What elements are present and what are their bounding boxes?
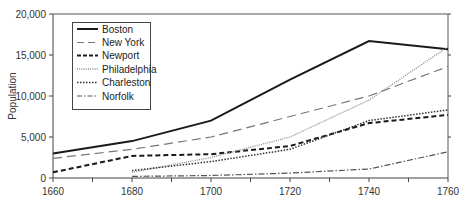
legend-label: Philadelphia [102, 64, 157, 75]
legend-label: Newport [102, 50, 139, 61]
x-tick-label: 1660 [42, 186, 65, 197]
y-tick-label: 0 [40, 173, 46, 184]
legend: Boston New York Newport Philadelphia Cha… [73, 23, 157, 110]
x-ticks: 1660 1680 1700 1720 1740 1760 [42, 178, 460, 197]
y-axis-title: Population [7, 72, 18, 119]
x-tick-label: 1700 [200, 186, 223, 197]
legend-label: Norfolk [102, 91, 135, 102]
legend-label: Boston [102, 24, 133, 35]
x-tick-label: 1740 [358, 186, 381, 197]
x-tick-label: 1680 [121, 186, 144, 197]
legend-label: Charleston [102, 77, 150, 88]
y-tick-label: 20,000 [15, 9, 46, 20]
y-tick-label: 5,000 [21, 132, 46, 143]
x-tick-label: 1760 [437, 186, 460, 197]
legend-label: New York [102, 37, 145, 48]
population-line-chart: 0 5,000 10,000 15,000 20,000 1660 1680 1… [0, 0, 462, 202]
y-tick-label: 15,000 [15, 50, 46, 61]
series-philadelphia-line [132, 47, 448, 173]
y-tick-label: 10,000 [15, 91, 46, 102]
x-tick-label: 1720 [279, 186, 302, 197]
